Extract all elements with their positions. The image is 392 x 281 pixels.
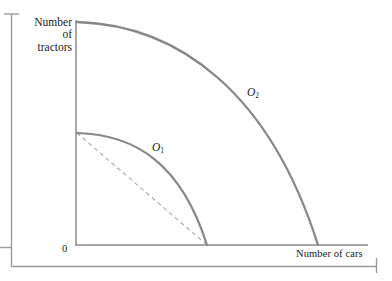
curve-label-o2-subscript: 2 (255, 91, 259, 100)
curve-o2 (77, 22, 318, 245)
chart-axes (75, 20, 368, 246)
figure-canvas: Number of tractors Number of cars 0 O1 O… (0, 0, 392, 281)
curve-label-o1: O1 (152, 141, 164, 155)
origin-label: 0 (62, 243, 67, 254)
y-axis-label: Number of tractors (14, 16, 72, 53)
curve-label-o2: O2 (247, 86, 259, 100)
curve-label-o1-subscript: 1 (160, 146, 164, 155)
x-axis-label: Number of cars (296, 248, 363, 259)
